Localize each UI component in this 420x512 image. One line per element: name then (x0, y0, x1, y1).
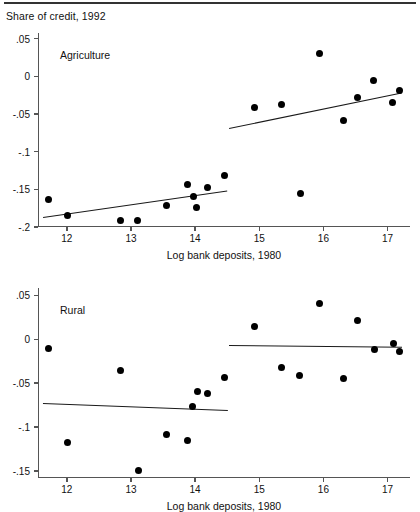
xaxis-title-rural: Log bank deposits, 1980 (167, 500, 281, 512)
ytick-label-rural-1: 0 (0, 334, 30, 345)
data-point-rural-13 (316, 300, 323, 307)
data-point-rural-9 (221, 374, 228, 381)
figure-container: Share of credit, 1992 Agriculture Log ba… (0, 0, 420, 512)
ytick-mark-rural-4 (34, 470, 38, 472)
data-point-rural-1 (64, 439, 71, 446)
xtick-label-rural-0: 12 (61, 484, 72, 495)
xtick-label-rural-4: 16 (318, 484, 329, 495)
ytick-mark-rural-2 (34, 382, 38, 384)
ytick-label-rural-4: -.15 (0, 465, 30, 476)
data-point-rural-12 (296, 372, 303, 379)
xtick-mark-rural-2 (194, 478, 196, 482)
ytick-mark-rural-1 (34, 339, 38, 341)
xtick-mark-rural-4 (323, 478, 325, 482)
data-point-rural-15 (354, 317, 361, 324)
data-point-rural-5 (184, 437, 191, 444)
xtick-mark-rural-0 (66, 478, 68, 482)
data-point-rural-17 (390, 340, 397, 347)
xtick-label-rural-5: 17 (382, 484, 393, 495)
ytick-mark-rural-3 (34, 426, 38, 428)
xtick-label-rural-2: 14 (190, 484, 201, 495)
ytick-mark-rural-0 (34, 295, 38, 297)
plot-area-rural (38, 288, 410, 478)
panel-rural: Rural Log bank deposits, 1980 .050-.05-.… (0, 0, 420, 512)
ytick-label-rural-0: .05 (0, 290, 30, 301)
ytick-label-rural-2: -.05 (0, 378, 30, 389)
panel-title-rural: Rural (60, 304, 85, 316)
data-point-rural-3 (135, 467, 142, 474)
xtick-mark-rural-3 (259, 478, 261, 482)
data-point-rural-10 (251, 323, 258, 330)
xtick-mark-rural-5 (387, 478, 389, 482)
data-point-rural-2 (117, 367, 124, 374)
xtick-label-rural-1: 13 (125, 484, 136, 495)
ytick-label-rural-3: -.1 (0, 422, 30, 433)
xtick-label-rural-3: 15 (254, 484, 265, 495)
xtick-mark-rural-1 (130, 478, 132, 482)
